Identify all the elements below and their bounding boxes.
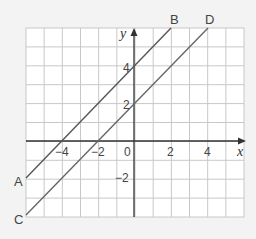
chart-container: A C B D y x 0 −4 −2 2 4 4 2 −2: [0, 0, 256, 239]
tick-x-neg2: −2: [91, 145, 105, 159]
y-axis-label: y: [118, 26, 127, 41]
origin-label: 0: [124, 145, 131, 159]
tick-x-2: 2: [167, 145, 174, 159]
coordinate-plot: A C B D y x 0 −4 −2 2 4 4 2 −2: [0, 0, 256, 239]
tick-y-2: 2: [123, 98, 130, 112]
label-d: D: [205, 12, 214, 27]
tick-x-4: 4: [204, 145, 211, 159]
label-c: C: [14, 212, 23, 227]
label-a: A: [14, 174, 23, 189]
x-axis-label: x: [236, 144, 244, 159]
label-b: B: [170, 12, 179, 27]
tick-y-4: 4: [123, 61, 130, 75]
tick-x-neg4: −4: [55, 145, 69, 159]
tick-y-neg2: −2: [115, 171, 129, 185]
